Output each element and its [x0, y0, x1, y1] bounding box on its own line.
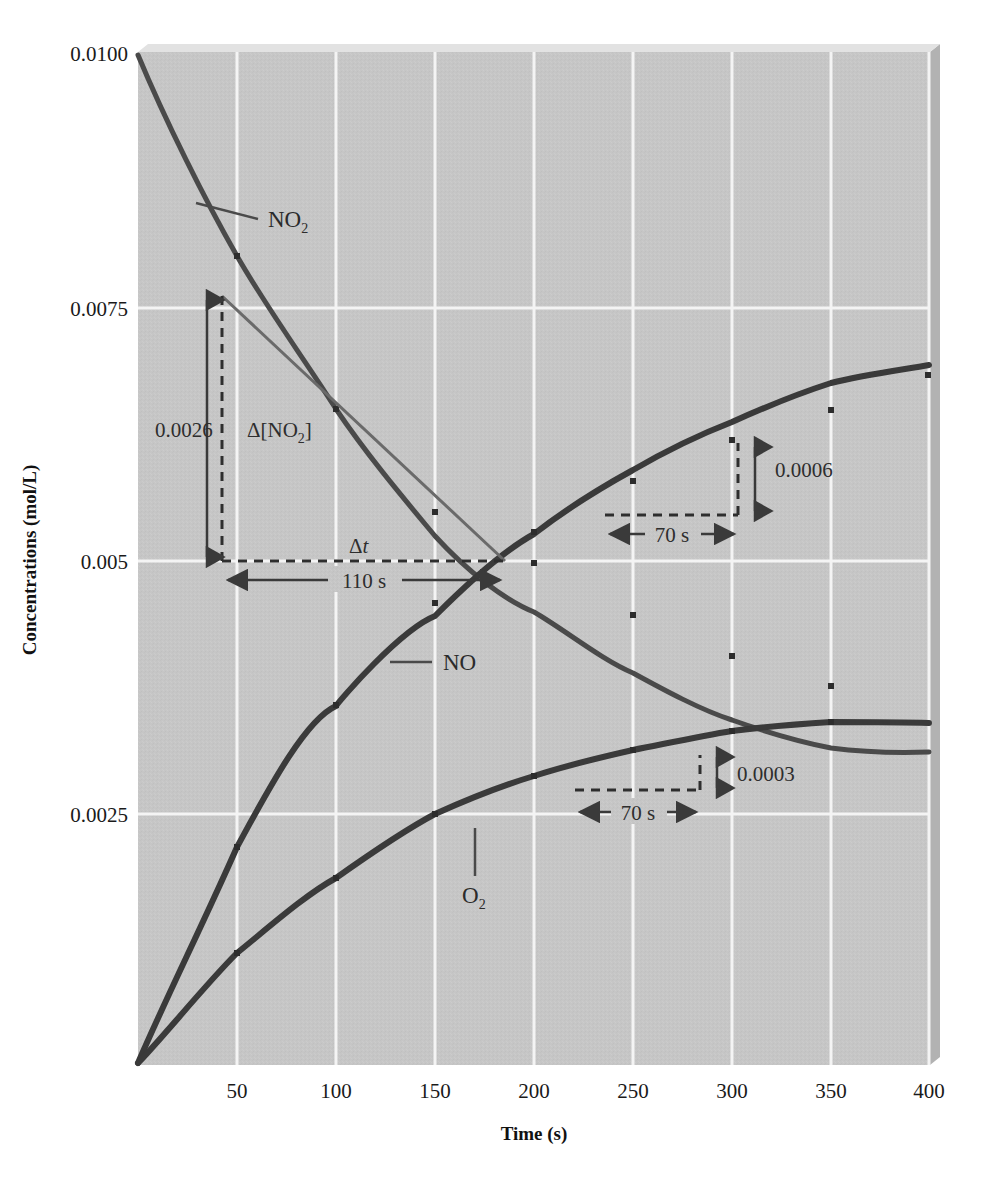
- xtick-label-150: 150: [419, 1079, 451, 1103]
- delta-no2-symbol-main: Δ[NO: [247, 418, 298, 442]
- xtick-label-250: 250: [617, 1079, 649, 1103]
- delta-t-symbol-main: Δ: [349, 534, 363, 558]
- panel-shadow-top: [138, 44, 940, 52]
- series-label-no2-sub: 2: [301, 221, 308, 236]
- annotation-delta-t-symbol: Δt: [349, 534, 370, 558]
- annotation-o2-delta-value: 0.0003: [737, 762, 795, 786]
- ytick-label-1: 0.0075: [70, 297, 128, 321]
- annotation-delta-t-value-front: 110 s: [342, 569, 386, 593]
- series-label-o2-sub: 2: [479, 897, 486, 912]
- xtick-label-400: 400: [913, 1079, 945, 1103]
- annotation-delta-no2-value: 0.0026: [155, 418, 213, 442]
- series-label-o2-main: O: [462, 883, 479, 908]
- annotation-o2-delta-t-front: 70 s: [621, 801, 655, 825]
- xtick-label-300: 300: [716, 1079, 748, 1103]
- xtick-label-50: 50: [227, 1079, 248, 1103]
- xtick-label-200: 200: [518, 1079, 550, 1103]
- panel-shadow-right: [930, 44, 940, 1065]
- series-label-no2-main: NO: [268, 207, 301, 232]
- ytick-label-0: 0.0100: [70, 42, 128, 66]
- delta-no2-symbol-close: ]: [305, 418, 312, 442]
- ytick-label-3: 0.0025: [70, 803, 128, 827]
- ytick-label-2: 0.005: [81, 550, 128, 574]
- delta-no2-symbol-sub: 2: [298, 431, 305, 446]
- y-axis-title: Concentrations (mol/L): [19, 465, 41, 656]
- series-label-no: NO: [443, 650, 476, 675]
- kinetics-concentration-chart: 0.0100 0.0075 0.005 0.0025 50 100 150 20…: [0, 0, 990, 1183]
- annotation-no-delta-value: 0.0006: [775, 458, 833, 482]
- x-axis-title: Time (s): [501, 1123, 568, 1145]
- xtick-label-350: 350: [815, 1079, 847, 1103]
- annotation-no-delta-t-front: 70 s: [655, 523, 689, 547]
- xtick-label-100: 100: [320, 1079, 352, 1103]
